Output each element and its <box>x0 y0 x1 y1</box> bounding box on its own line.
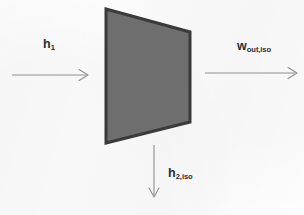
work-output-arrow <box>205 68 297 79</box>
label-inlet-enthalpy-base: h <box>43 37 51 51</box>
label-outlet-enthalpy: h2,iso <box>168 164 193 181</box>
label-work-output-base: w <box>237 39 247 53</box>
label-work-output-subscript: out,iso <box>247 45 271 54</box>
figure-graphics <box>0 0 304 215</box>
label-outlet-enthalpy-subscript: 2,iso <box>176 172 193 181</box>
turbine-block <box>106 9 190 143</box>
inlet-enthalpy-arrow <box>12 70 88 81</box>
label-inlet-enthalpy: h1 <box>43 35 55 52</box>
label-outlet-enthalpy-base: h <box>168 166 176 180</box>
outlet-enthalpy-arrow <box>149 145 159 197</box>
figure-canvas: h1 wout,iso h2,iso <box>0 0 304 215</box>
label-inlet-enthalpy-subscript: 1 <box>51 43 55 52</box>
label-work-output: wout,iso <box>237 37 271 54</box>
